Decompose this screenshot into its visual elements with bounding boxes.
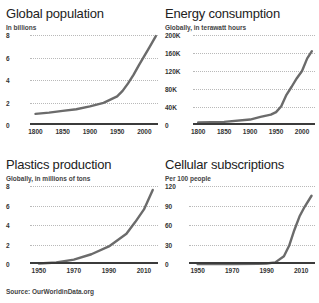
y-tick-label: 30 bbox=[165, 241, 172, 248]
plot-area-cellular-subscriptions bbox=[189, 186, 315, 264]
curve-path-cellular-subscriptions bbox=[198, 196, 312, 264]
panel-plastics-production: Plastics production Globally, in million… bbox=[6, 157, 158, 285]
y-tick-label: 120 bbox=[165, 183, 176, 190]
x-tick-label: 1970 bbox=[225, 267, 239, 274]
x-tick-label: 1950 bbox=[32, 267, 46, 274]
curve-global-population bbox=[30, 35, 158, 125]
x-axis-labels-global-population: 18001850190019502000 bbox=[6, 125, 158, 139]
y-tick-label: 4 bbox=[6, 222, 10, 229]
chart-title-cellular-subscriptions: Cellular subscriptions bbox=[165, 157, 315, 172]
x-axis-labels-cellular-subscriptions: 1950197019902010 bbox=[165, 264, 315, 278]
y-tick-label: 160K bbox=[165, 50, 181, 57]
source-note: Source: OurWorldinData.org bbox=[6, 288, 94, 295]
chart-subtitle-global-population: In billions bbox=[6, 23, 158, 32]
plot-area-global-population bbox=[30, 35, 158, 125]
x-tick-label: 2000 bbox=[295, 128, 309, 135]
plot-energy-consumption: 040K80K120K160K200K 18001850190019502000 bbox=[165, 35, 315, 139]
y-tick-label: 80K bbox=[165, 86, 177, 93]
y-tick-label: 60 bbox=[165, 222, 172, 229]
x-tick-label: 1950 bbox=[110, 128, 124, 135]
y-tick-label: 8 bbox=[6, 183, 10, 190]
x-tick-label: 2010 bbox=[137, 267, 151, 274]
plot-global-population: 02468 18001850190019502000 bbox=[6, 35, 158, 139]
y-tick-label: 6 bbox=[6, 202, 10, 209]
x-tick-label: 1800 bbox=[28, 128, 42, 135]
curve-path-plastics-production bbox=[39, 190, 153, 264]
chart-subtitle-plastics-production: Globally, in millions of tons bbox=[6, 174, 158, 183]
y-tick-label: 2 bbox=[6, 241, 10, 248]
x-tick-label: 1950 bbox=[190, 267, 204, 274]
four-panel-chart-figure: Global population In billions 02468 1800… bbox=[0, 0, 319, 303]
x-axis-labels-plastics-production: 1950197019902010 bbox=[6, 264, 158, 278]
curve-path-global-population bbox=[35, 36, 155, 114]
y-axis-labels-energy-consumption: 040K80K120K160K200K bbox=[165, 35, 189, 125]
chart-title-energy-consumption: Energy consumption bbox=[165, 6, 315, 21]
x-tick-label: 1900 bbox=[243, 128, 257, 135]
x-tick-label: 1950 bbox=[269, 128, 283, 135]
x-tick-label: 1970 bbox=[67, 267, 81, 274]
y-tick-label: 8 bbox=[6, 32, 10, 39]
x-tick-label: 1850 bbox=[55, 128, 69, 135]
y-tick-label: 2 bbox=[6, 99, 10, 106]
curve-plastics-production bbox=[30, 186, 158, 264]
x-tick-label: 2010 bbox=[294, 267, 308, 274]
panel-global-population: Global population In billions 02468 1800… bbox=[6, 6, 158, 148]
y-axis-labels-plastics-production: 02468 bbox=[6, 186, 30, 264]
plot-plastics-production: 02468 1950197019902010 bbox=[6, 186, 158, 278]
y-tick-label: 6 bbox=[6, 54, 10, 61]
y-axis-labels-cellular-subscriptions: 0306090120 bbox=[165, 186, 189, 264]
chart-subtitle-energy-consumption: Globally, in terawatt hours bbox=[165, 23, 315, 32]
plot-area-energy-consumption bbox=[193, 35, 315, 125]
curve-path-energy-consumption bbox=[198, 51, 312, 122]
y-tick-label: 90 bbox=[165, 202, 172, 209]
y-tick-label: 200K bbox=[165, 32, 181, 39]
x-axis-labels-energy-consumption: 18001850190019502000 bbox=[165, 125, 315, 139]
x-tick-label: 1850 bbox=[217, 128, 231, 135]
x-tick-label: 1800 bbox=[191, 128, 205, 135]
curve-energy-consumption bbox=[193, 35, 315, 125]
chart-subtitle-cellular-subscriptions: Per 100 people bbox=[165, 174, 315, 183]
chart-title-global-population: Global population bbox=[6, 6, 158, 21]
curve-cellular-subscriptions bbox=[189, 186, 315, 264]
x-tick-label: 1990 bbox=[259, 267, 273, 274]
x-tick-label: 2000 bbox=[137, 128, 151, 135]
chart-title-plastics-production: Plastics production bbox=[6, 157, 158, 172]
y-tick-label: 40K bbox=[165, 104, 177, 111]
panel-energy-consumption: Energy consumption Globally, in terawatt… bbox=[165, 6, 315, 148]
y-axis-labels-global-population: 02468 bbox=[6, 35, 30, 125]
x-tick-label: 1900 bbox=[83, 128, 97, 135]
y-tick-label: 4 bbox=[6, 77, 10, 84]
y-tick-label: 120K bbox=[165, 68, 181, 75]
panel-cellular-subscriptions: Cellular subscriptions Per 100 people 03… bbox=[165, 157, 315, 285]
x-tick-label: 1990 bbox=[102, 267, 116, 274]
plot-area-plastics-production bbox=[30, 186, 158, 264]
plot-cellular-subscriptions: 0306090120 1950197019902010 bbox=[165, 186, 315, 278]
